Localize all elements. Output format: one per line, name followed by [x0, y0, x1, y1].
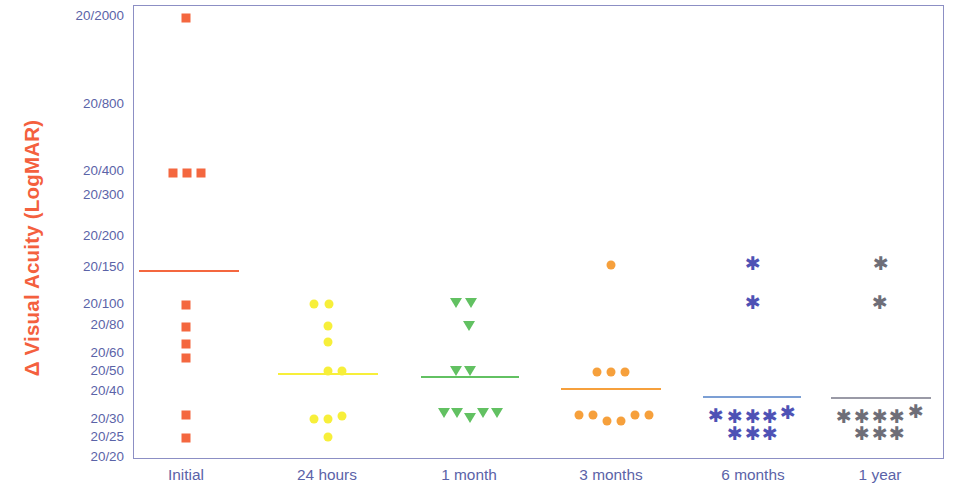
data-point-24-hours	[324, 322, 333, 331]
x-axis-tick-label-initial: Initial	[168, 466, 204, 484]
data-point-initial	[182, 434, 191, 443]
data-point-6-months: ✱	[727, 424, 743, 443]
data-point-1-month	[464, 366, 476, 376]
y-axis-tick-label: 20/400	[0, 163, 124, 178]
data-point-1-month	[477, 408, 489, 418]
data-point-6-months: ✱	[745, 293, 761, 312]
data-point-1-month	[491, 408, 503, 418]
data-point-initial	[182, 301, 191, 310]
data-point-24-hours	[338, 367, 347, 376]
mean-line-6-months	[703, 396, 801, 398]
data-point-24-hours	[325, 300, 334, 309]
y-axis-tick-label: 20/800	[0, 96, 124, 111]
data-point-1-month	[463, 321, 475, 331]
data-point-1-year: ✱	[908, 402, 924, 421]
data-point-6-months: ✱	[780, 403, 796, 422]
mean-line-initial	[139, 270, 239, 272]
data-point-24-hours	[324, 433, 333, 442]
data-point-initial	[197, 169, 206, 178]
y-axis-tick-label: 20/25	[0, 429, 124, 444]
chart-canvas: Δ Visual Acuity (LogMAR) 20/200020/80020…	[0, 0, 954, 492]
data-point-3-months	[575, 411, 584, 420]
data-point-6-months: ✱	[745, 424, 761, 443]
data-point-24-hours	[310, 300, 319, 309]
data-point-1-month	[438, 408, 450, 418]
x-axis-tick-label-3-months: 3 months	[579, 466, 642, 484]
data-point-3-months	[607, 368, 616, 377]
data-point-1-year: ✱	[836, 407, 852, 426]
y-axis-tick-label: 20/100	[0, 296, 124, 311]
x-axis-tick-label-1-year: 1 year	[859, 466, 902, 484]
data-point-3-months	[631, 411, 640, 420]
data-point-3-months	[645, 411, 654, 420]
mean-line-1-month	[421, 376, 519, 378]
x-axis-tick-label-6-months: 6 months	[721, 466, 784, 484]
data-point-3-months	[621, 368, 630, 377]
data-point-1-month	[465, 298, 477, 308]
data-point-3-months	[593, 368, 602, 377]
data-point-initial	[182, 354, 191, 363]
data-point-24-hours	[324, 415, 333, 424]
data-point-1-year: ✱	[854, 424, 870, 443]
data-point-24-hours	[310, 415, 319, 424]
data-point-1-year: ✱	[889, 424, 905, 443]
x-axis-tick-label-24-hours: 24 hours	[297, 466, 357, 484]
data-point-1-year: ✱	[872, 293, 888, 312]
y-axis-tick-label: 20/30	[0, 411, 124, 426]
y-axis-tick-label: 20/20	[0, 449, 124, 464]
data-point-3-months	[589, 411, 598, 420]
data-point-1-month	[450, 298, 462, 308]
x-axis-tick-label-1-month: 1 month	[441, 466, 497, 484]
data-point-initial	[183, 169, 192, 178]
data-point-1-year: ✱	[873, 254, 889, 273]
data-point-24-hours	[338, 412, 347, 421]
data-point-3-months	[603, 417, 612, 426]
data-point-24-hours	[324, 367, 333, 376]
y-axis-tick-label: 20/300	[0, 187, 124, 202]
plot-area: ✱✱✱✱✱✱✱✱✱✱✱✱✱✱✱✱✱✱✱✱	[133, 5, 944, 459]
data-point-24-hours	[324, 338, 333, 347]
data-point-3-months	[617, 417, 626, 426]
data-point-6-months: ✱	[762, 424, 778, 443]
y-axis-tick-label: 20/200	[0, 228, 124, 243]
y-axis-tick-label: 20/80	[0, 317, 124, 332]
y-axis-tick-label: 20/60	[0, 345, 124, 360]
mean-line-1-year	[831, 397, 931, 399]
data-point-initial	[182, 340, 191, 349]
data-point-6-months: ✱	[745, 254, 761, 273]
data-point-3-months	[607, 261, 616, 270]
y-axis-tick-label: 20/150	[0, 259, 124, 274]
data-point-1-year: ✱	[872, 424, 888, 443]
data-point-initial	[182, 14, 191, 23]
y-axis-tick-label: 20/50	[0, 363, 124, 378]
y-axis-tick-label: 20/2000	[0, 8, 124, 23]
mean-line-3-months	[561, 388, 661, 390]
data-point-6-months: ✱	[708, 406, 724, 425]
y-axis-tick-label: 20/40	[0, 383, 124, 398]
data-point-1-month	[450, 366, 462, 376]
data-point-1-month	[464, 413, 476, 423]
data-point-1-month	[451, 408, 463, 418]
data-point-initial	[182, 323, 191, 332]
data-point-initial	[169, 169, 178, 178]
data-point-initial	[182, 411, 191, 420]
